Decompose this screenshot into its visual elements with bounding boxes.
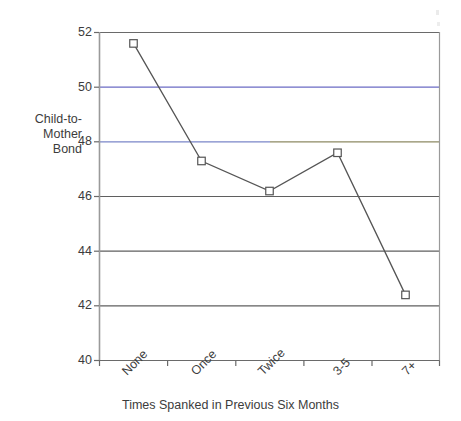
data-point-marker [198,157,206,165]
data-series-line [134,43,406,294]
chart-figure: Child-to- Mother Bond 52 50 48 46 44 42 … [0,0,461,421]
data-point-marker [334,149,342,157]
plot-area [0,0,461,421]
data-point-marker [266,187,274,195]
x-axis-title: Times Spanked in Previous Six Months [0,398,461,412]
data-point-marker [130,40,138,48]
data-markers-group [130,40,410,299]
data-point-marker [402,291,410,299]
